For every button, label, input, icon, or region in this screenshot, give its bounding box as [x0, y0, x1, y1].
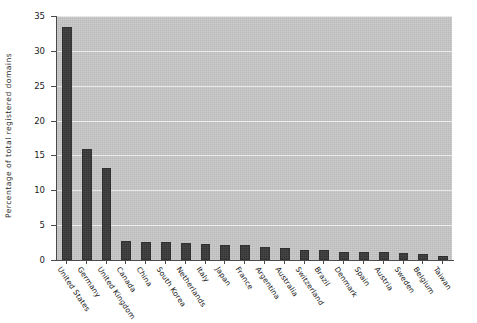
bar [201, 244, 211, 260]
bar [399, 253, 409, 260]
y-tick-label: 0 [23, 255, 45, 265]
y-tick-mark-30 [51, 51, 56, 52]
bar [102, 168, 112, 260]
y-tick-mark-0 [51, 260, 56, 261]
x-tick-mark [403, 261, 404, 264]
x-tick-mark [106, 261, 107, 264]
x-tick-mark [185, 261, 186, 264]
gridline-30 [57, 51, 452, 52]
x-tick-mark [383, 261, 384, 264]
bar [339, 252, 349, 260]
bar [260, 247, 270, 260]
bar [280, 248, 290, 260]
x-tick-mark [284, 261, 285, 264]
bar [181, 243, 191, 260]
y-tick-label: 25 [23, 81, 45, 91]
y-tick-label: 35 [23, 11, 45, 21]
x-tick-mark [244, 261, 245, 264]
x-tick-label: Japan [214, 265, 233, 288]
bar [141, 242, 151, 260]
x-tick-mark [323, 261, 324, 264]
y-tick-label: 30 [23, 46, 45, 56]
bar [379, 252, 389, 260]
x-tick-mark [343, 261, 344, 264]
y-axis-title-text: Percentage of total registered domains [5, 52, 14, 217]
x-tick-label: China [135, 265, 155, 288]
y-axis-title: Percentage of total registered domains [0, 0, 18, 270]
y-tick-mark-15 [51, 155, 56, 156]
x-tick-label: Italy [194, 265, 211, 284]
bar [82, 149, 92, 261]
gridline-5 [57, 225, 452, 226]
x-tick-mark [224, 261, 225, 264]
y-tick-label: 10 [23, 185, 45, 195]
x-tick-mark [86, 261, 87, 264]
bar [359, 252, 369, 260]
x-tick-mark [165, 261, 166, 264]
gridline-10 [57, 190, 452, 191]
bar [220, 245, 230, 260]
y-tick-mark-10 [51, 190, 56, 191]
bar [62, 27, 72, 260]
y-tick-label: 5 [23, 220, 45, 230]
y-tick-mark-25 [51, 86, 56, 87]
x-tick-label: Spain [352, 265, 371, 288]
x-axis-line [56, 260, 454, 261]
y-tick-mark-35 [51, 16, 56, 17]
y-tick-label: 15 [23, 150, 45, 160]
bar [319, 250, 329, 260]
x-tick-mark [264, 261, 265, 264]
x-tick-label: Brazil [313, 265, 333, 288]
bar [121, 241, 131, 260]
x-tick-mark [363, 261, 364, 264]
bar [300, 250, 310, 261]
y-tick-mark-20 [51, 121, 56, 122]
bar [161, 242, 171, 260]
bar [240, 245, 250, 260]
gridline-15 [57, 155, 452, 156]
bar-chart-figure: Percentage of total registered domains 0… [0, 0, 477, 323]
x-tick-mark [66, 261, 67, 264]
x-tick-mark [422, 261, 423, 264]
plot-area [56, 16, 452, 260]
gridline-20 [57, 121, 452, 122]
x-tick-mark [205, 261, 206, 264]
y-tick-label: 20 [23, 116, 45, 126]
x-tick-mark [304, 261, 305, 264]
gridline-25 [57, 86, 452, 87]
x-tick-mark [145, 261, 146, 264]
gridline-35 [57, 16, 452, 17]
y-tick-mark-5 [51, 225, 56, 226]
x-tick-label: France [234, 265, 256, 291]
x-tick-mark [442, 261, 443, 264]
x-tick-mark [125, 261, 126, 264]
